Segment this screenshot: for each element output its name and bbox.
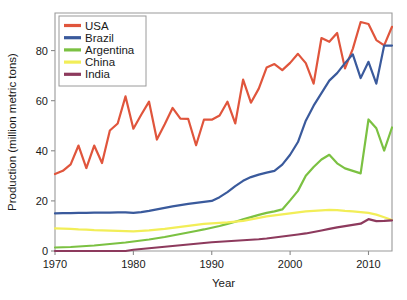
y-axis-title: Production (million metric tons) [6,53,18,211]
legend-label-argentina: Argentina [85,44,135,56]
y-tick-label: 40 [36,145,48,157]
chart-canvas: 020406080 19701980199020002010 Year Prod… [0,0,407,300]
legend-label-brazil: Brazil [85,32,114,44]
y-tick-label: 20 [36,195,48,207]
series-line-argentina [55,119,392,247]
legend-label-usa: USA [85,20,109,32]
y-axis-ticks: 020406080 [36,45,55,257]
x-tick-label: 1980 [121,258,145,270]
x-axis-title: Year [212,277,235,289]
legend-label-china: China [85,56,116,68]
y-tick-label: 0 [42,245,48,257]
legend-label-india: India [85,68,111,80]
x-axis-ticks: 19701980199020002010 [43,251,381,270]
y-tick-label: 80 [36,45,48,57]
x-tick-label: 2000 [278,258,302,270]
chart-legend: USABrazilArgentinaChinaIndia [59,16,146,86]
x-tick-label: 2010 [356,258,380,270]
production-line-chart: 020406080 19701980199020002010 Year Prod… [0,0,407,300]
x-tick-label: 1990 [200,258,224,270]
y-tick-label: 60 [36,95,48,107]
x-tick-label: 1970 [43,258,67,270]
